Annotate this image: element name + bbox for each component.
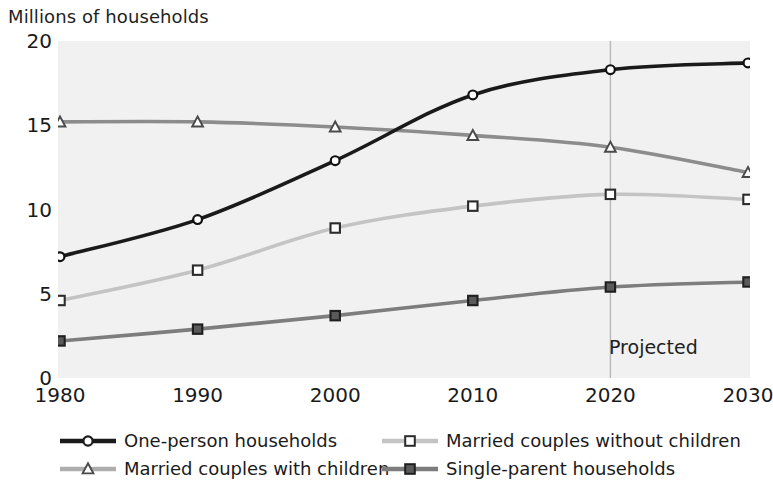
legend-swatch-circle-open-icon xyxy=(60,432,116,450)
projected-annotation: Projected xyxy=(609,336,698,358)
data-point-marker xyxy=(744,59,750,68)
series-line xyxy=(60,282,748,341)
y-axis-tick-label: 15 xyxy=(4,113,52,137)
x-axis-tick-label: 2020 xyxy=(585,383,636,407)
chart-legend: One-person households Married couples wi… xyxy=(60,430,760,486)
x-axis-tick-label: 2010 xyxy=(447,383,498,407)
series-one-person-households xyxy=(58,59,750,262)
legend-label: Married couples with children xyxy=(124,458,389,479)
data-point-marker xyxy=(331,156,340,165)
data-point-marker xyxy=(193,265,202,274)
x-axis-tick-label: 1990 xyxy=(172,383,223,407)
x-axis-tick-label: 2000 xyxy=(310,383,361,407)
x-axis-tick-label: 2030 xyxy=(723,383,773,407)
y-axis-tick-label: 5 xyxy=(4,282,52,306)
legend-swatch-square-filled-icon xyxy=(382,460,438,478)
legend-label: Single-parent households xyxy=(446,458,675,479)
series-line xyxy=(60,63,748,257)
data-point-marker xyxy=(606,65,615,74)
legend-label: One-person households xyxy=(124,430,337,451)
legend-item-one-person-households: One-person households xyxy=(60,430,337,451)
plot-svg xyxy=(58,41,750,378)
data-point-marker xyxy=(331,311,340,320)
data-point-marker xyxy=(606,282,615,291)
data-point-marker xyxy=(468,296,477,305)
legend-item-married-couples-without-children: Married couples without children xyxy=(382,430,741,451)
legend-item-married-couples-with-children: Married couples with children xyxy=(60,458,389,479)
series-line xyxy=(60,122,748,173)
legend-item-single-parent-households: Single-parent households xyxy=(382,458,675,479)
plot-area xyxy=(58,41,750,378)
data-point-marker xyxy=(468,91,477,100)
data-point-marker xyxy=(468,201,477,210)
legend-swatch-triangle-open-icon xyxy=(60,460,116,478)
data-point-marker xyxy=(606,190,615,199)
data-point-marker xyxy=(193,324,202,333)
data-point-marker xyxy=(58,296,65,305)
y-axis-tick-label: 20 xyxy=(4,29,52,53)
legend-swatch-square-open-icon xyxy=(382,432,438,450)
data-point-marker xyxy=(331,223,340,232)
legend-label: Married couples without children xyxy=(446,430,741,451)
data-point-marker xyxy=(58,252,64,261)
series-married-couples-without-children xyxy=(58,190,750,306)
data-point-marker xyxy=(58,336,65,345)
x-axis: 198019902000201020202030 xyxy=(0,383,767,417)
y-axis-tick-label: 10 xyxy=(4,198,52,222)
x-axis-tick-label: 1980 xyxy=(35,383,86,407)
data-point-marker xyxy=(743,195,750,204)
data-point-marker xyxy=(193,215,202,224)
data-point-marker xyxy=(743,277,750,286)
